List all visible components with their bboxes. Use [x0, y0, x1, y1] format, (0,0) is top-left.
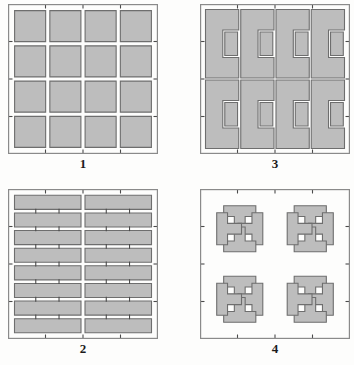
panel-2-label: 2	[8, 341, 158, 357]
square-paver	[120, 116, 151, 147]
zigzag-paver-insert	[260, 103, 273, 126]
square-paver	[85, 81, 116, 112]
panel-4-tile-group	[217, 206, 334, 323]
stretcher-bar	[15, 283, 82, 297]
square-paver	[15, 116, 46, 147]
panel-4-label: 4	[200, 341, 350, 357]
square-paver	[50, 81, 81, 112]
stretcher-bar	[15, 301, 82, 315]
panel-3-label: 3	[200, 156, 350, 172]
square-paver	[15, 46, 46, 77]
square-paver	[15, 81, 46, 112]
panel-3-diagram	[200, 4, 350, 154]
stretcher-bar	[15, 319, 82, 333]
zigzag-paver-insert	[331, 32, 344, 55]
stretcher-bar	[85, 301, 152, 315]
square-paver	[120, 81, 151, 112]
panel-4-t-pavers-pinwheel: 4	[200, 189, 350, 339]
square-paver	[15, 11, 46, 42]
panel-2-diagram	[8, 189, 158, 339]
panel-2-frame	[9, 190, 158, 339]
square-paver	[50, 11, 81, 42]
stretcher-bar	[85, 266, 152, 280]
square-paver	[85, 116, 116, 147]
stretcher-bar	[15, 266, 82, 280]
stretcher-bar	[85, 319, 152, 333]
stretcher-bar	[85, 195, 152, 209]
zigzag-paver-insert	[260, 32, 273, 55]
square-paver	[50, 116, 81, 147]
square-paver	[85, 46, 116, 77]
panel-4-diagram	[200, 189, 350, 339]
panel-1-square-grid: 1	[8, 4, 158, 154]
stretcher-bar	[15, 231, 82, 245]
square-paver	[50, 46, 81, 77]
stretcher-bar	[15, 248, 82, 262]
panel-1-tile-group	[15, 11, 152, 148]
panel-4-tick-group	[200, 189, 350, 339]
panel-4-frame	[201, 190, 350, 339]
stretcher-bar	[15, 213, 82, 227]
stretcher-bar	[15, 195, 82, 209]
square-paver	[85, 11, 116, 42]
figure-root: 1 2 3 4	[0, 0, 354, 365]
panel-1-diagram	[8, 4, 158, 154]
stretcher-bar	[85, 283, 152, 297]
square-paver	[120, 11, 151, 42]
stretcher-bar	[85, 231, 152, 245]
stretcher-bar	[85, 213, 152, 227]
zigzag-paver-insert	[225, 103, 238, 126]
panel-2-running-bond: 2	[8, 189, 158, 339]
stretcher-bar	[85, 248, 152, 262]
zigzag-paver-insert	[295, 103, 308, 126]
panel-1-label: 1	[8, 156, 158, 172]
zigzag-paver-insert	[331, 103, 344, 126]
panel-3-zigzag-pavers: 3	[200, 4, 350, 154]
square-paver	[120, 46, 151, 77]
panel-2-tick-group	[8, 189, 158, 339]
zigzag-paver-insert	[295, 32, 308, 55]
zigzag-paver-insert	[225, 32, 238, 55]
panel-2-tile-group	[15, 195, 152, 332]
panel-3-tile-group	[206, 10, 345, 149]
